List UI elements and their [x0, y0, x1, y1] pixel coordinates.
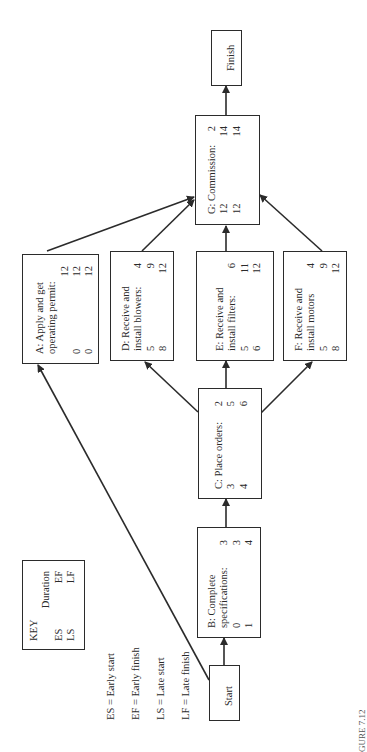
key-box: KEY Duration ESEF LSLF — [22, 560, 85, 650]
f-title-1: F: Receive and — [293, 288, 305, 351]
finish-label: Finish — [225, 45, 236, 71]
e-ef: 11 — [239, 263, 251, 273]
a-ef: 12 — [71, 266, 83, 277]
f-title-2: install motors — [305, 294, 317, 351]
e-duration: 6 — [226, 263, 238, 268]
legend-es: ES = Early start — [105, 653, 116, 720]
edge-c-d — [145, 362, 198, 412]
node-f-motors: F: Receive and install motors4 59 812 — [283, 251, 347, 361]
start-node: Start — [209, 665, 240, 721]
node-d-blowers: D: Receive and install blowers:4 59 812 — [110, 251, 174, 361]
key-ls: LS — [65, 629, 77, 641]
b-lf: 4 — [243, 540, 255, 545]
b-title-2: specifications: — [218, 567, 230, 628]
edge-c-f — [261, 362, 312, 413]
g-ef: 14 — [218, 126, 230, 137]
start-label: Start — [223, 686, 234, 706]
d-es: 5 — [145, 346, 157, 351]
legend-ef: EF = Early finish — [130, 647, 141, 720]
c-lf: 6 — [238, 401, 250, 406]
f-duration: 4 — [305, 263, 317, 268]
legend-ls: LS = Late start — [155, 657, 166, 720]
b-title-1: B: Complete — [206, 575, 218, 628]
edge-d-g — [142, 200, 194, 251]
node-g-commission: G: Commission:2 1214 1214 — [195, 115, 260, 225]
b-ef: 3 — [231, 540, 243, 545]
a-title-1: A: Apply and get — [34, 282, 46, 354]
finish-node: Finish — [211, 30, 242, 86]
key-duration: Duration — [40, 571, 52, 608]
c-es: 3 — [225, 484, 237, 489]
d-lf: 12 — [157, 263, 169, 274]
f-es: 5 — [318, 346, 330, 351]
e-title-2: install filters: — [226, 295, 238, 351]
f-ls: 8 — [330, 346, 342, 351]
g-lf: 14 — [231, 126, 243, 137]
a-title-2: operating permit: — [46, 281, 58, 354]
c-ef: 5 — [225, 401, 237, 406]
g-title: G: Commission: — [206, 145, 218, 214]
figure-caption: GURE 7.12 — [357, 710, 367, 752]
node-b-specifications: B: Complete specifications:3 03 14 — [197, 527, 261, 638]
g-duration: 2 — [206, 126, 218, 131]
b-es: 0 — [231, 623, 243, 628]
edge-f-g — [260, 195, 322, 251]
g-es: 12 — [218, 204, 230, 215]
d-ef: 9 — [145, 263, 157, 268]
f-ef: 9 — [318, 263, 330, 268]
a-es: 0 — [71, 349, 83, 354]
d-title-1: D: Receive and — [120, 286, 132, 351]
d-title-2: install blowers: — [132, 287, 144, 351]
d-duration: 4 — [132, 263, 144, 268]
key-title: KEY — [28, 619, 40, 641]
e-title-1: E: Receive and — [214, 287, 226, 351]
e-lf: 12 — [251, 263, 263, 274]
edge-a-g — [47, 197, 194, 251]
key-ef: EF — [53, 571, 65, 583]
legend-lf: LF = Late finish — [180, 651, 191, 720]
key-es: ES — [53, 629, 65, 641]
e-ls: 6 — [251, 346, 263, 351]
c-ls: 4 — [238, 484, 250, 489]
node-a-operating-permit: A: Apply and get operating permit: 12 01… — [22, 254, 99, 364]
a-lf: 12 — [83, 266, 95, 277]
b-ls: 1 — [243, 623, 255, 628]
node-c-place-orders: C: Place orders:2 35 46 — [198, 388, 262, 499]
a-ls: 0 — [83, 349, 95, 354]
f-lf: 12 — [330, 263, 342, 274]
c-title: C: Place orders: — [213, 422, 225, 489]
key-lf: LF — [65, 571, 77, 583]
node-e-filters: E: Receive and install filters:6 511 612 — [196, 251, 274, 361]
c-duration: 2 — [213, 401, 225, 406]
g-ls: 12 — [231, 204, 243, 215]
a-duration: 12 — [59, 266, 71, 277]
e-es: 5 — [239, 346, 251, 351]
d-ls: 8 — [157, 346, 169, 351]
b-duration: 3 — [218, 540, 230, 545]
